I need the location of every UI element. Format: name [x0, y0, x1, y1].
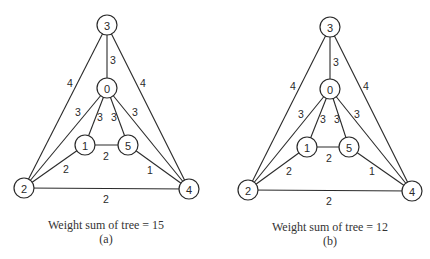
node-label: 5	[125, 140, 131, 152]
edge-weight-label: 2	[63, 163, 69, 175]
edge-weight-label: 4	[363, 80, 369, 92]
node-5: 5	[339, 137, 359, 157]
node-label: 0	[104, 83, 110, 95]
node-4: 4	[179, 179, 199, 199]
node-label: 4	[409, 186, 415, 198]
node-3: 3	[320, 17, 340, 37]
node-3: 3	[97, 15, 117, 35]
node-1: 1	[75, 135, 95, 155]
edge-weight-label: 4	[140, 77, 146, 89]
edge-weight-label: 3	[333, 56, 339, 68]
node-label: 1	[304, 142, 310, 154]
edge-5-4	[349, 147, 412, 191]
node-4: 4	[402, 181, 422, 201]
node-label: 4	[186, 184, 192, 196]
node-0: 0	[97, 78, 117, 98]
edge-weight-label: 2	[103, 193, 109, 205]
edge-weight-label: 2	[286, 165, 292, 177]
node-0: 0	[320, 79, 340, 99]
caption-weight-sum: Weight sum of tree = 15	[48, 218, 164, 232]
edge-weight-label: 3	[334, 113, 340, 125]
node-2: 2	[14, 178, 34, 198]
edge-weight-label: 2	[326, 152, 332, 164]
edge-weight-label: 3	[97, 111, 103, 123]
node-label: 5	[346, 142, 352, 154]
edge-2-4	[24, 188, 189, 189]
graph-b: 34433332212301524Weight sum of tree = 12…	[238, 17, 422, 248]
node-label: 2	[245, 185, 251, 197]
graph-diagram-canvas: 34433332212301524Weight sum of tree = 15…	[0, 0, 430, 259]
graph-a: 34433332212301524Weight sum of tree = 15…	[14, 15, 199, 246]
node-5: 5	[118, 135, 138, 155]
node-1: 1	[297, 137, 317, 157]
node-label: 0	[327, 84, 333, 96]
edge-weight-label: 3	[298, 108, 304, 120]
edge-weight-label: 3	[320, 113, 326, 125]
edge-2-4	[248, 190, 412, 191]
edge-weight-label: 3	[75, 106, 81, 118]
edge-weight-label: 2	[103, 150, 109, 162]
edge-weight-label: 3	[354, 108, 360, 120]
node-label: 3	[104, 20, 110, 32]
node-label: 2	[21, 183, 27, 195]
edge-weight-label: 2	[326, 195, 332, 207]
edge-weight-label: 3	[110, 54, 116, 66]
edge-weight-label: 3	[132, 106, 138, 118]
edge-weight-label: 4	[67, 77, 73, 89]
edge-weight-label: 1	[147, 164, 153, 176]
node-label: 1	[82, 140, 88, 152]
node-2: 2	[238, 180, 258, 200]
caption-sublabel: (b)	[323, 234, 337, 248]
edge-weight-label: 3	[111, 111, 117, 123]
edge-weight-label: 1	[369, 165, 375, 177]
caption-weight-sum: Weight sum of tree = 12	[272, 220, 388, 234]
edge-weight-label: 4	[290, 80, 296, 92]
caption-sublabel: (a)	[99, 232, 112, 246]
node-label: 3	[327, 22, 333, 34]
